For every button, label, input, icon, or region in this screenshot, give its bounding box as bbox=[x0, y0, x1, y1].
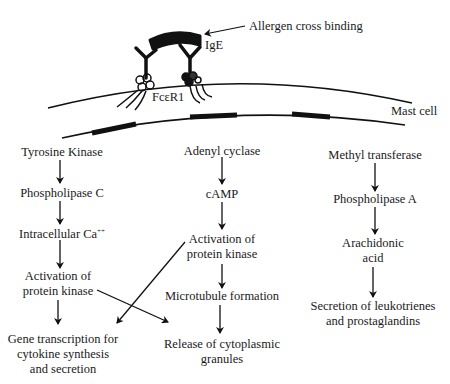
leukotrienes-node: Secretion of leukotrienesand prostagland… bbox=[311, 299, 436, 329]
microtubule-node: Microtubule formation bbox=[165, 289, 279, 304]
camp-node: cAMP bbox=[206, 187, 239, 202]
phospholipase-c-node: Phospholipase C bbox=[20, 186, 104, 201]
fcer1-receptor-right-icon bbox=[182, 72, 212, 103]
granule-release-node: Release of cytoplasmicgranules bbox=[164, 337, 280, 367]
mast-cell-label: Mast cell bbox=[391, 104, 437, 119]
phospholipase-a-node: Phospholipase A bbox=[333, 192, 417, 207]
tyrosine-kinase-node: Tyrosine Kinase bbox=[21, 145, 102, 160]
cross-arrow-to-gene bbox=[117, 242, 185, 323]
outer-membrane bbox=[48, 84, 412, 108]
ige-label: IgE bbox=[205, 38, 223, 53]
receptor-label: FcεR1 bbox=[152, 90, 184, 105]
membrane-bar bbox=[92, 124, 136, 133]
methyl-transferase-node: Methyl transferase bbox=[328, 148, 421, 163]
cross-arrow-to-release bbox=[97, 290, 168, 322]
allergen-icon bbox=[150, 33, 200, 49]
middle-protein-kinase-node: Activation ofprotein kinase bbox=[187, 232, 257, 262]
adenyl-cyclase-node: Adenyl cyclase bbox=[184, 144, 261, 159]
intracellular-ca-node: Intracellular Ca++ bbox=[19, 227, 105, 242]
allergen-label: Allergen cross binding bbox=[249, 19, 363, 34]
gene-transcription-node: Gene transcription forcytokine synthesis… bbox=[8, 332, 118, 377]
membrane-bar bbox=[292, 114, 330, 117]
allergen-pointer-arrow bbox=[205, 26, 245, 34]
arachidonic-acid-node: Arachidonicacid bbox=[342, 236, 404, 266]
left-protein-kinase-node: Activation ofprotein kinase bbox=[23, 269, 93, 299]
membrane-bar bbox=[190, 115, 237, 117]
ige-antibody-right-icon bbox=[180, 45, 200, 76]
